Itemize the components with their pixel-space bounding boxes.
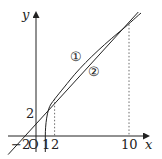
curve-1-marker: ① [70,49,82,64]
tick-x-1: 1 [42,137,50,152]
line-2 [8,12,138,155]
coordinate-diagram: ① ② y x 2 −2 O 1 2 10 [0,0,162,159]
y-axis-label: y [21,7,30,22]
origin-label: O [28,137,39,152]
tick-x-2: 2 [51,137,59,152]
tick-x-10: 10 [121,137,138,152]
curve-2-marker: ② [88,64,100,79]
curve-1 [45,13,141,152]
tick-y-2: 2 [26,106,34,121]
x-axis-label: x [145,137,153,152]
